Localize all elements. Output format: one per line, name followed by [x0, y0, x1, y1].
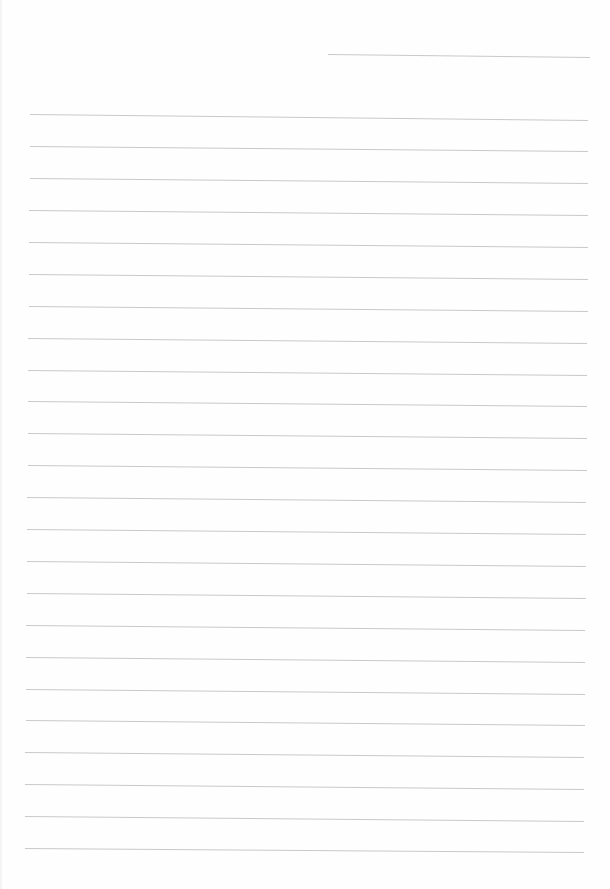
ruled-line: [25, 849, 584, 853]
ruled-line: [25, 817, 584, 822]
ruled-line: [29, 307, 588, 312]
ruled-line: [28, 371, 587, 376]
ruled-line: [25, 753, 584, 758]
ruled-lines-group: [25, 55, 590, 853]
ruled-line: [30, 147, 588, 152]
ruled-line: [29, 211, 588, 216]
ruled-line: [27, 594, 586, 599]
ruled-line: [26, 658, 585, 663]
header-line: [328, 55, 590, 58]
ruled-line: [26, 690, 585, 695]
ruled-line: [26, 721, 585, 726]
ruled-line: [28, 339, 587, 344]
ruled-line: [29, 243, 588, 248]
ruled-lines: [0, 0, 610, 889]
ruled-line: [28, 434, 587, 439]
ruled-line: [29, 275, 588, 280]
ruled-line: [28, 402, 587, 407]
ruled-line: [30, 179, 588, 184]
lined-paper-page: [0, 0, 610, 889]
ruled-line: [26, 626, 585, 631]
ruled-line: [27, 530, 586, 535]
ruled-line: [30, 115, 588, 121]
ruled-line: [28, 466, 587, 471]
ruled-line: [27, 562, 586, 567]
ruled-line: [27, 498, 586, 503]
ruled-line: [25, 785, 584, 790]
